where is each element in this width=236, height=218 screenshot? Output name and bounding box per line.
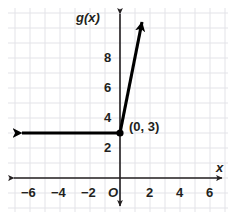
x-tick-neg4: −4 [51, 186, 66, 199]
vertex-point [116, 129, 123, 136]
x-tick-neg2: −2 [81, 186, 96, 199]
x-tick-6: 6 [206, 186, 213, 199]
y-axis-label: g(x) [76, 11, 100, 24]
x-tick-2: 2 [146, 186, 153, 199]
x-axis-label: x [216, 161, 223, 174]
x-tick-4: 4 [176, 186, 183, 199]
y-tick-8: 8 [104, 51, 111, 64]
origin-label: O [108, 186, 118, 199]
y-tick-4: 4 [104, 111, 111, 124]
x-tick-neg6: −6 [21, 186, 36, 199]
vertex-point-label: (0, 3) [129, 120, 159, 133]
y-tick-6: 6 [104, 81, 111, 94]
graph-figure: g(x) x 8 6 4 2 −6 −4 −2 O 2 4 6 (0, 3) [0, 0, 236, 218]
y-tick-2: 2 [104, 141, 111, 154]
